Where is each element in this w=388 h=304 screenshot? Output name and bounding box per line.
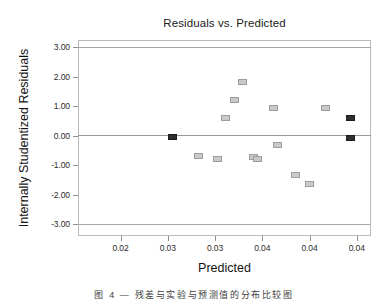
data-point — [230, 97, 239, 103]
figure-caption: 图 4 — 残差与实验与预测值的分布比较图 — [0, 288, 388, 301]
data-point — [269, 105, 278, 111]
x-tick-mark — [310, 236, 311, 241]
x-tick-label: 0.03 — [145, 243, 191, 253]
data-point — [213, 156, 222, 162]
data-point — [238, 79, 247, 85]
x-tick-mark — [121, 236, 122, 241]
y-tick-mark — [73, 47, 78, 48]
data-point — [346, 115, 355, 121]
figure-container: Residuals vs. Predicted Internally Stude… — [0, 0, 388, 304]
y-tick-label: 0.00 — [24, 131, 70, 141]
y-tick-label: -3.00 — [24, 219, 70, 229]
data-point — [273, 142, 282, 148]
x-tick-mark — [215, 236, 216, 241]
y-tick-label: 1.00 — [24, 101, 70, 111]
y-tick-mark — [73, 224, 78, 225]
y-tick-label: 2.00 — [24, 72, 70, 82]
x-tick-label: 0.04 — [239, 243, 285, 253]
x-tick-label: 0.03 — [192, 243, 238, 253]
y-tick-mark — [73, 136, 78, 137]
data-point — [221, 115, 230, 121]
x-tick-mark — [357, 236, 358, 241]
x-tick-label: 0.02 — [98, 243, 144, 253]
y-tick-label: -2.00 — [24, 190, 70, 200]
x-tick-label: 0.04 — [334, 243, 380, 253]
data-point — [321, 105, 330, 111]
data-point — [253, 156, 262, 162]
reference-line-positive-three — [78, 47, 371, 48]
chart-title: Residuals vs. Predicted — [78, 17, 371, 29]
y-tick-mark — [73, 165, 78, 166]
plot-area — [78, 40, 371, 236]
x-axis-title: Predicted — [78, 261, 371, 275]
reference-line-negative-three — [78, 224, 371, 225]
data-point — [168, 134, 177, 140]
data-point — [305, 181, 314, 187]
data-point — [291, 172, 300, 178]
data-point — [194, 153, 203, 159]
y-tick-mark — [73, 106, 78, 107]
y-tick-mark — [73, 195, 78, 196]
y-tick-label: -1.00 — [24, 160, 70, 170]
data-point — [346, 135, 355, 141]
reference-line-zero — [78, 135, 371, 136]
x-tick-mark — [168, 236, 169, 241]
x-tick-label: 0.04 — [287, 243, 333, 253]
y-tick-mark — [73, 77, 78, 78]
x-tick-mark — [262, 236, 263, 241]
residuals-scatter-chart: Residuals vs. Predicted Internally Stude… — [0, 0, 388, 282]
y-tick-label: 3.00 — [24, 42, 70, 52]
